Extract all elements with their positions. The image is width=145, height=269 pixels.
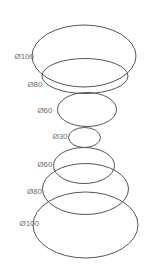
diameter-label-5-d80: Ø80 — [27, 187, 43, 196]
ellipse-stack-diagram: Ø100Ø80Ø60Ø30Ø60Ø80Ø100 — [0, 0, 145, 269]
diameter-label-1-d80: Ø80 — [27, 80, 43, 89]
ellipse-3-d30 — [69, 128, 101, 148]
technical-drawing: Ø100Ø80Ø60Ø30Ø60Ø80Ø100 — [0, 0, 145, 269]
ellipse-0-d100 — [32, 25, 136, 87]
diameter-label-4-d60: Ø60 — [37, 160, 53, 169]
diameter-label-2-d60: Ø60 — [37, 106, 53, 115]
ellipse-4-d60 — [54, 148, 115, 184]
diameter-label-3-d30: Ø30 — [52, 132, 68, 141]
ellipse-6-d100 — [33, 192, 138, 258]
diameter-label-6-d100: Ø100 — [19, 219, 39, 228]
ellipse-5-d80 — [43, 164, 129, 215]
ellipse-1-d80 — [42, 59, 128, 94]
ellipse-2-d60 — [58, 93, 117, 127]
diameter-label-0-d100: Ø100 — [14, 52, 34, 61]
